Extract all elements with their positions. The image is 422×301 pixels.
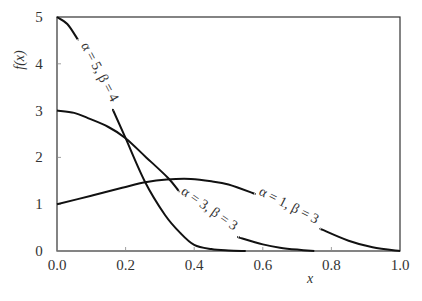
x-tick-label: 0.2 [116, 257, 135, 273]
y-tick-label: 5 [35, 9, 43, 25]
y-tick-label: 0 [35, 243, 43, 259]
y-tick-label: 4 [35, 56, 43, 72]
beta-density-chart: 0.00.20.40.60.81.0 012345 f(x) x α = 5, … [0, 0, 422, 301]
curve-alpha3-beta3 [238, 237, 314, 251]
curve-alpha5-beta4 [113, 110, 246, 251]
x-tick-label: 0.8 [322, 257, 341, 273]
label-alpha3-beta3: α = 3, β = 3 [179, 183, 241, 233]
curve-alpha5-beta4 [57, 17, 78, 40]
x-axis-label: x [306, 271, 314, 286]
label-alpha5-beta4: α = 5, β = 4 [78, 40, 122, 105]
x-tick-label: 0.6 [253, 257, 272, 273]
x-tick-label: 1.0 [391, 257, 410, 273]
x-tick-label: 0.0 [48, 257, 67, 273]
y-axis-label: f(x) [12, 50, 28, 70]
y-tick-label: 2 [35, 149, 43, 165]
label-alpha1-beta3: α = 1, β = 3 [257, 183, 322, 226]
curve-alpha1-beta3 [320, 229, 400, 251]
y-tick-label: 1 [35, 196, 43, 212]
y-tick-label: 3 [35, 103, 43, 119]
x-tick-label: 0.4 [185, 257, 204, 273]
